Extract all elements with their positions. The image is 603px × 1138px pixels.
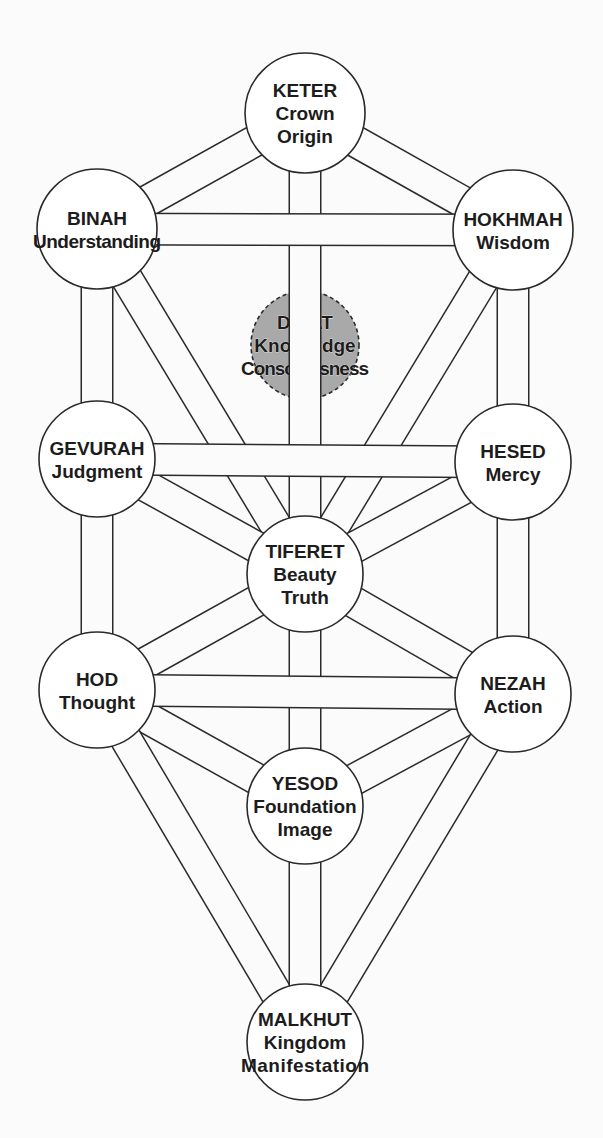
sefirah-nezah: NEZAHAction	[455, 636, 571, 752]
sefirah-attribute: Judgment	[52, 461, 143, 482]
tree-of-life-diagram: DA'ATKnowledgeConsciousness KETERCrownOr…	[0, 0, 603, 1138]
path-hod-nezah	[97, 690, 513, 694]
sefirah-attribute: Origin	[277, 126, 333, 147]
sefirah-attribute: Kingdom	[264, 1032, 346, 1053]
sefirah-name: HOKHMAH	[463, 209, 562, 230]
sefirah-attribute: Thought	[59, 692, 136, 713]
sefirah-name: HOD	[76, 669, 118, 690]
sefirah-circle	[39, 401, 155, 517]
sefirah-hokhmah: HOKHMAHWisdom	[453, 170, 573, 290]
sefirah-gevurah: GEVURAHJudgment	[39, 401, 155, 517]
sefirah-name: BINAH	[67, 208, 127, 229]
sefirah-circle	[455, 636, 571, 752]
sefirah-attribute: Action	[483, 696, 542, 717]
sefirah-tiferet: TIFERETBeautyTruth	[247, 516, 363, 632]
sefirah-attribute: Manifestation	[241, 1055, 369, 1076]
sefirah-circle	[39, 632, 155, 748]
sefirah-attribute: Foundation	[253, 796, 356, 817]
sefirah-hesed: HESEDMercy	[455, 404, 571, 520]
sefirah-keter: KETERCrownOrigin	[245, 53, 365, 173]
sefirah-attribute: Beauty	[273, 564, 337, 585]
sefirah-name: GEVURAH	[49, 438, 144, 459]
sefirah-attribute: Understanding	[33, 231, 161, 252]
sefirah-name: MALKHUT	[258, 1009, 352, 1030]
sefirah-name: KETER	[273, 80, 338, 101]
sefirah-name: YESOD	[272, 773, 339, 794]
path-gevurah-hesed	[97, 459, 513, 462]
sefirah-circle	[453, 170, 573, 290]
sefirah-circle	[455, 404, 571, 520]
sefirah-hod: HODThought	[39, 632, 155, 748]
sefirah-yesod: YESODFoundationImage	[247, 748, 363, 864]
sefirah-attribute: Truth	[281, 587, 329, 608]
sefirah-circle	[37, 169, 157, 289]
sefirah-attribute: Image	[278, 819, 333, 840]
sefirah-attribute: Wisdom	[476, 232, 550, 253]
sefirah-attribute: Mercy	[486, 464, 541, 485]
sefirah-name: HESED	[480, 441, 545, 462]
sefirah-attribute: Crown	[275, 103, 334, 124]
sefirah-name: TIFERET	[265, 541, 345, 562]
sefirah-name: NEZAH	[480, 673, 545, 694]
